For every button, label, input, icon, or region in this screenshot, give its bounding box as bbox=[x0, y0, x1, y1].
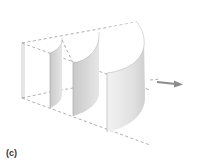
shell-3 bbox=[107, 22, 145, 132]
shell-2 bbox=[73, 32, 99, 116]
direction-arrow-icon bbox=[157, 81, 183, 88]
exit-dash bbox=[150, 79, 160, 80]
nested-shells-diagram bbox=[0, 0, 198, 167]
figure-caption: (c) bbox=[6, 148, 17, 158]
shell-1 bbox=[50, 38, 62, 108]
back-bottom-edge bbox=[22, 88, 73, 98]
inner-dash bbox=[62, 40, 73, 63]
left-panel bbox=[22, 43, 24, 99]
